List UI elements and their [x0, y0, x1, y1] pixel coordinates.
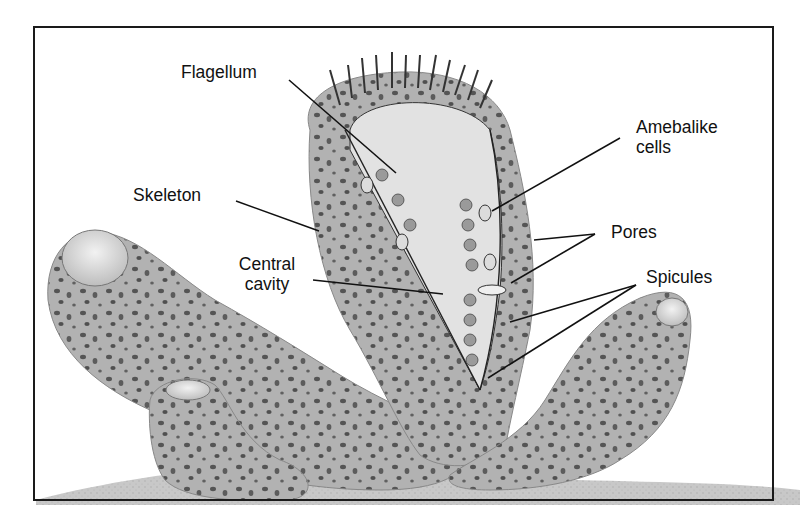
- label-flagellum: Flagellum: [181, 62, 257, 82]
- pore-opening: [478, 285, 506, 295]
- label-spicules: Spicules: [646, 267, 712, 287]
- sponge-illustration: [0, 0, 808, 531]
- left-osculum: [62, 230, 128, 286]
- sponge-diagram: Flagellum Skeleton Central cavity Amebal…: [0, 0, 808, 531]
- label-amebalike-cells: Amebalike cells: [636, 117, 718, 157]
- label-amebalike-line2: cells: [636, 137, 718, 157]
- label-skeleton: Skeleton: [133, 185, 201, 205]
- small-osculum: [166, 380, 210, 400]
- label-central-cavity: Central cavity: [228, 254, 306, 294]
- right-osculum: [656, 298, 688, 326]
- label-central-cavity-line1: Central: [228, 254, 306, 274]
- label-central-cavity-line2: cavity: [228, 274, 306, 294]
- label-pores: Pores: [611, 222, 657, 242]
- label-amebalike-line1: Amebalike: [636, 117, 718, 137]
- skeleton-leader: [236, 201, 319, 231]
